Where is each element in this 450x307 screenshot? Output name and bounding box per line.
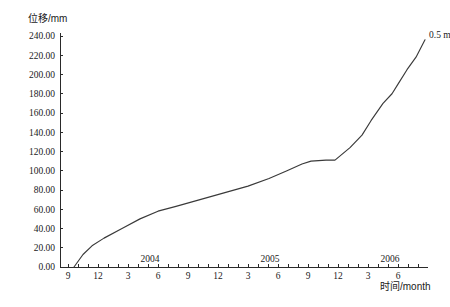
y-tick-label: 140.00 <box>29 128 55 138</box>
x-tick-label: 3 <box>126 271 131 281</box>
y-tick-label: 240.00 <box>29 31 55 41</box>
y-tick-label: 80.00 <box>34 185 56 195</box>
x-tick-label: 3 <box>246 271 251 281</box>
y-axis-group: 0.0020.0040.0060.0080.00100.00120.00140.… <box>29 31 63 272</box>
x-axis-group: 912369123691236 200420052006 <box>60 254 428 281</box>
y-tick-label: 120.00 <box>29 147 55 157</box>
x-tick-label: 6 <box>396 271 401 281</box>
annotation-group: 0.5 m <box>429 30 450 40</box>
year-marker-label: 2005 <box>261 254 280 264</box>
y-tick-label: 100.00 <box>29 166 55 176</box>
y-tick-label: 0.00 <box>38 262 55 272</box>
x-tick-label: 6 <box>156 271 161 281</box>
y-tick-label: 220.00 <box>29 51 55 61</box>
y-tick-label: 200.00 <box>29 70 55 80</box>
year-marker-group: 200420052006 <box>141 254 400 264</box>
series-annotation-0-5m: 0.5 m <box>429 30 450 40</box>
x-tick-label: 12 <box>333 271 343 281</box>
y-tick-group: 0.0020.0040.0060.0080.00100.00120.00140.… <box>29 31 63 272</box>
y-tick-label: 60.00 <box>34 205 56 215</box>
x-axis-title: 时间/month <box>380 280 431 292</box>
x-tick-label: 3 <box>366 271 371 281</box>
x-tick-label: 12 <box>213 271 223 281</box>
y-tick-label: 160.00 <box>29 108 55 118</box>
x-tick-group: 912369123691236 <box>66 264 418 282</box>
x-tick-label: 9 <box>306 271 311 281</box>
displacement-time-chart: 0.0020.0040.0060.0080.00100.00120.00140.… <box>0 0 450 307</box>
year-marker-label: 2004 <box>141 254 160 264</box>
x-tick-label: 6 <box>276 271 281 281</box>
x-tick-label: 9 <box>186 271 191 281</box>
x-tick-label: 9 <box>66 271 71 281</box>
x-tick-label: 12 <box>93 271 103 281</box>
year-marker-label: 2006 <box>381 254 400 264</box>
series-group <box>74 40 425 267</box>
y-tick-label: 20.00 <box>34 243 56 253</box>
y-tick-label: 180.00 <box>29 89 55 99</box>
y-axis-title: 位移/mm <box>28 12 67 24</box>
y-tick-label: 40.00 <box>34 224 56 234</box>
series-line-0-5m <box>74 40 425 267</box>
chart-canvas: 0.0020.0040.0060.0080.00100.00120.00140.… <box>0 0 450 307</box>
